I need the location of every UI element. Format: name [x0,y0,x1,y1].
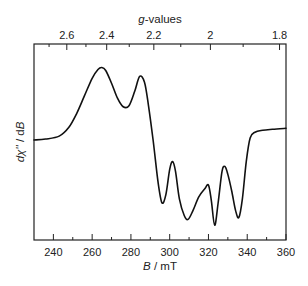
g-tick-label: 1.8 [272,29,287,41]
spectrum-line [34,67,286,225]
x-tick-label: 300 [161,246,179,258]
x-tick-label: 340 [238,246,256,258]
x-axis-title: B / mT [143,260,177,272]
g-tick-label: 2.6 [59,29,74,41]
x-tick-label: 280 [122,246,140,258]
g-axis-title: g-values [138,13,182,25]
plot-frame [34,44,286,240]
g-tick-label: 2 [207,29,213,41]
x-tick-label: 360 [277,246,295,258]
y-axis-title: dχ'' / dB [14,121,26,162]
x-tick-label: 240 [44,246,62,258]
g-axis-ticks [49,44,279,50]
x-tick-label: 320 [199,246,217,258]
x-tick-label: 260 [83,246,101,258]
g-tick-label: 2.4 [99,29,114,41]
x-axis-ticks [53,234,286,240]
g-axis-tick-labels: 2.62.42.221.8 [59,29,287,41]
g-tick-label: 2.2 [146,29,161,41]
epr-chart: 240260280300320340360 2.62.42.221.8 B / … [0,0,308,286]
x-axis-tick-labels: 240260280300320340360 [44,246,295,258]
